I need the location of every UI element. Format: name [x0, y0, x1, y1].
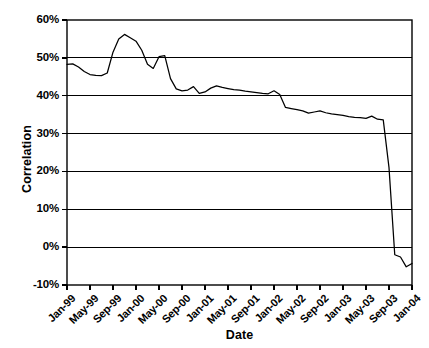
gridlines — [67, 58, 412, 247]
y-tick-label: 60% — [0, 13, 59, 25]
y-axis-title: Correlation — [20, 104, 34, 214]
y-tick-label: -10% — [0, 278, 59, 290]
x-axis-title: Date — [67, 328, 412, 342]
y-tick-label: 40% — [0, 89, 59, 101]
plot-frame — [67, 20, 412, 285]
correlation-series-line — [67, 34, 412, 266]
x-axis-ticks — [67, 285, 412, 290]
y-axis-ticks — [62, 20, 67, 285]
y-tick-label: 0% — [0, 240, 59, 252]
y-tick-label: 50% — [0, 51, 59, 63]
correlation-line-chart: 60%50%40%30%20%10%0%-10% Jan-99May-99Sep… — [0, 0, 429, 348]
